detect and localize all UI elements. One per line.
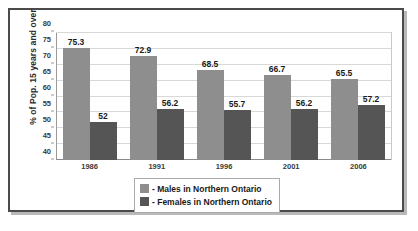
y-axis-tick-label: 75 (43, 35, 51, 44)
y-axis-tick-label: 45 (43, 131, 51, 140)
bar-value-label: 65.5 (336, 68, 353, 78)
plot-area: 75.35272.956.268.555.766.756.265.557.2 (56, 32, 392, 160)
legend-label-males: - Males in Northern Ontario (152, 184, 262, 194)
x-axis-tick-label: 1996 (190, 162, 257, 171)
y-axis-tick-label: 60 (43, 83, 51, 92)
chart-legend: - Males in Northern Ontario - Females in… (134, 178, 280, 213)
bar-value-label: 68.5 (202, 59, 219, 69)
y-axis-tick-mark (51, 159, 54, 160)
bar-value-label: 56.2 (162, 98, 179, 108)
bar-group: 75.352 (56, 33, 123, 160)
y-axis-tick-label: 65 (43, 67, 51, 76)
y-axis-tick-mark (51, 47, 54, 48)
y-axis-tick-label: 80 (43, 19, 51, 28)
x-axis-tick-label: 2006 (325, 162, 392, 171)
x-axis-tick-label: 1991 (123, 162, 190, 171)
y-axis-tick-label: 55 (43, 99, 51, 108)
y-axis-tick-mark (51, 95, 54, 96)
bar-groups: 75.35272.956.268.555.766.756.265.557.2 (56, 33, 391, 160)
x-axis-tick-label: 2001 (258, 162, 325, 171)
y-axis-tick-labels: 404550556065707580 (30, 32, 54, 160)
legend-label-females: - Females in Northern Ontario (152, 197, 272, 207)
y-axis-tick-label: 50 (43, 115, 51, 124)
bar-value-label: 75.3 (68, 37, 85, 47)
bar-group: 72.956.2 (123, 33, 190, 160)
bar-pair: 68.555.7 (195, 33, 253, 160)
bar-group: 65.557.2 (324, 33, 391, 160)
y-axis-tick-label: 70 (43, 51, 51, 60)
bar-value-label: 66.7 (269, 64, 286, 74)
bar-females: 57.2 (358, 105, 385, 160)
bar-pair: 72.956.2 (128, 33, 186, 160)
bar-pair: 66.756.2 (262, 33, 320, 160)
bar-females: 56.2 (157, 109, 184, 160)
y-axis-tick-mark (51, 31, 54, 32)
chart-figure-frame: % of Pop. 15 years and over 404550556065… (8, 8, 404, 212)
y-axis-tick-mark (51, 111, 54, 112)
bar-group: 66.756.2 (257, 33, 324, 160)
bar-females: 52 (90, 122, 117, 160)
legend-item-males: - Males in Northern Ontario (140, 182, 272, 195)
bar-males: 75.3 (63, 48, 90, 160)
bar-value-label: 52 (98, 111, 107, 121)
bar-males: 72.9 (130, 56, 157, 160)
bar-pair: 65.557.2 (329, 33, 387, 160)
legend-swatch-females-icon (140, 197, 149, 206)
bar-males: 65.5 (331, 79, 358, 160)
y-axis-tick-mark (51, 79, 54, 80)
y-axis-tick-label: 40 (43, 147, 51, 156)
legend-swatch-males-icon (140, 184, 149, 193)
bar-value-label: 56.2 (296, 98, 313, 108)
bar-value-label: 57.2 (363, 94, 380, 104)
bar-value-label: 72.9 (135, 45, 152, 55)
bar-value-label: 55.7 (229, 99, 246, 109)
bar-males: 68.5 (197, 70, 224, 160)
bar-pair: 75.352 (61, 33, 119, 160)
bar-group: 68.555.7 (190, 33, 257, 160)
y-axis-tick-mark (51, 127, 54, 128)
x-axis-tick-labels: 19861991199620012006 (56, 162, 392, 171)
bar-males: 66.7 (264, 75, 291, 160)
y-axis-tick-mark (51, 143, 54, 144)
bar-females: 55.7 (224, 110, 251, 160)
legend-item-females: - Females in Northern Ontario (140, 195, 272, 208)
bar-females: 56.2 (291, 109, 318, 160)
x-axis-tick-label: 1986 (56, 162, 123, 171)
y-axis-tick-mark (51, 63, 54, 64)
